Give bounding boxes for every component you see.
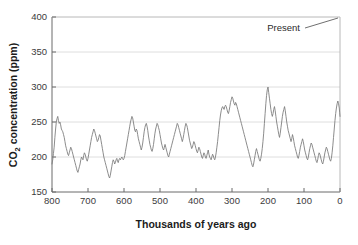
y-tick-label-350: 350 xyxy=(31,46,47,57)
x-tick-label-0: 0 xyxy=(337,195,342,206)
present-annotation-label: Present xyxy=(267,22,300,33)
y-tick-label-250: 250 xyxy=(31,116,47,127)
x-tick-label-600: 600 xyxy=(116,195,132,206)
x-axis-tick-labels: 8007006005004003002001000 xyxy=(44,195,343,206)
x-tick-label-700: 700 xyxy=(80,195,96,206)
y-axis-title-suffix: concentration (ppm) xyxy=(7,43,19,147)
x-axis-title: Thousands of years ago xyxy=(136,218,257,230)
x-tick-label-400: 400 xyxy=(188,195,204,206)
co2-concentration-line-chart: 150200250300350400 800700600500400300200… xyxy=(0,0,358,245)
y-tick-label-300: 300 xyxy=(31,81,47,92)
co2-ice-core-figure: 150200250300350400 800700600500400300200… xyxy=(0,0,358,245)
x-tick-label-200: 200 xyxy=(260,195,276,206)
x-tick-label-800: 800 xyxy=(44,195,60,206)
y-tick-label-200: 200 xyxy=(31,151,47,162)
x-tick-label-100: 100 xyxy=(296,195,312,206)
y-tick-label-400: 400 xyxy=(31,11,47,22)
x-tick-label-500: 500 xyxy=(152,195,168,206)
y-axis-title-prefix: CO xyxy=(7,151,19,167)
x-tick-label-300: 300 xyxy=(224,195,240,206)
